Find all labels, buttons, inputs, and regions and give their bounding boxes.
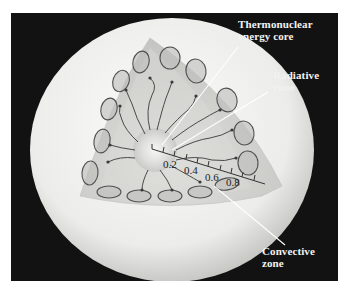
label-radiative-zone: Radiative zone (273, 69, 319, 93)
tick-0-6: 0.6 (205, 171, 219, 183)
label-energy-core: Thermonuclear energy core (238, 18, 313, 42)
label-convective-line2: zone (262, 257, 315, 269)
tick-0-8: 0.8 (226, 176, 240, 188)
label-convective-line1: Convective (262, 245, 315, 257)
label-convective-zone: Convective zone (262, 245, 315, 269)
label-energy-core-line2: energy core (238, 30, 313, 42)
label-radiative-line1: Radiative (273, 69, 319, 81)
tick-0-2: 0.2 (163, 158, 177, 170)
diagram-panel: 0.2 0.4 0.6 0.8 Thermonuclear energy cor… (11, 13, 338, 281)
sun-cutaway-illustration: 0.2 0.4 0.6 0.8 (11, 13, 338, 281)
tick-0-4: 0.4 (184, 164, 198, 176)
label-radiative-line2: zone (273, 81, 319, 93)
label-energy-core-line1: Thermonuclear (238, 18, 313, 30)
